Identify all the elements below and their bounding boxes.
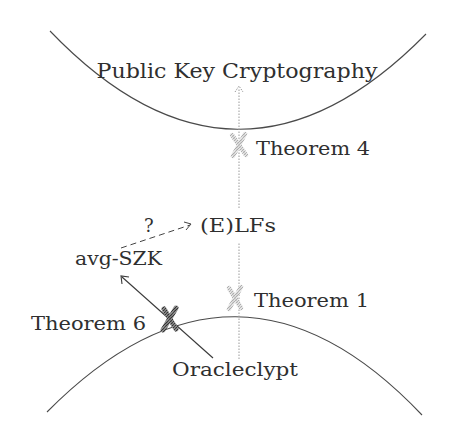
oraclecrypt-label: Oracleclypt — [172, 358, 298, 380]
separation-diagram: Public Key Cryptography Theorem 4 ? (E)L… — [0, 0, 450, 437]
elfs-node-label: (E)LFs — [200, 214, 276, 236]
theorem-1-label: Theorem 1 — [254, 289, 369, 311]
avg-szk-node-label: avg-SZK — [75, 247, 163, 269]
public-key-cryptography-label: Public Key Cryptography — [97, 60, 378, 83]
theorem-4-label: Theorem 4 — [256, 137, 370, 159]
dashed-arrow-avgszk-to-elfs — [121, 222, 191, 248]
theorem-6-label: Theorem 6 — [31, 312, 146, 334]
theorem-6-cross-icon — [163, 308, 176, 330]
question-mark-label: ? — [144, 215, 154, 236]
